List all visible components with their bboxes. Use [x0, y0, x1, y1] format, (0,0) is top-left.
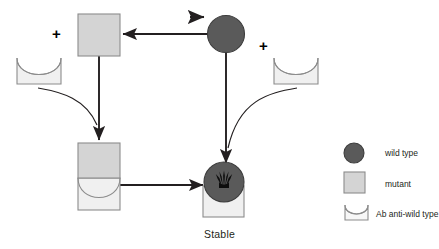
edge-antibody-left-curve	[38, 88, 97, 125]
legend-label-wild-type: wild type	[385, 149, 418, 158]
legend-antibody-icon	[343, 203, 371, 223]
legend-wild-type-icon	[343, 142, 365, 164]
node-wildtype-top	[208, 16, 245, 53]
edge-antibody-right-curve	[228, 88, 297, 148]
node-mutant-top	[78, 14, 120, 56]
stable-label: Stable	[204, 229, 235, 240]
legend-label-ab-anti-wild-type: Ab anti-wild type	[376, 210, 438, 219]
node-mutant-antibody-complex	[78, 143, 120, 210]
plus-left-operator: +	[52, 26, 61, 41]
node-antibody-right	[274, 58, 318, 84]
legend-label-mutant: mutant	[385, 180, 411, 189]
plus-right-operator: +	[259, 38, 268, 53]
legend-mutant-icon	[343, 171, 367, 195]
diagram-svg	[0, 0, 439, 249]
diagram-canvas: + + Stable wild type mutant Ab anti-wild…	[0, 0, 439, 249]
node-antibody-left	[17, 58, 61, 84]
node-stable-complex	[203, 162, 244, 217]
